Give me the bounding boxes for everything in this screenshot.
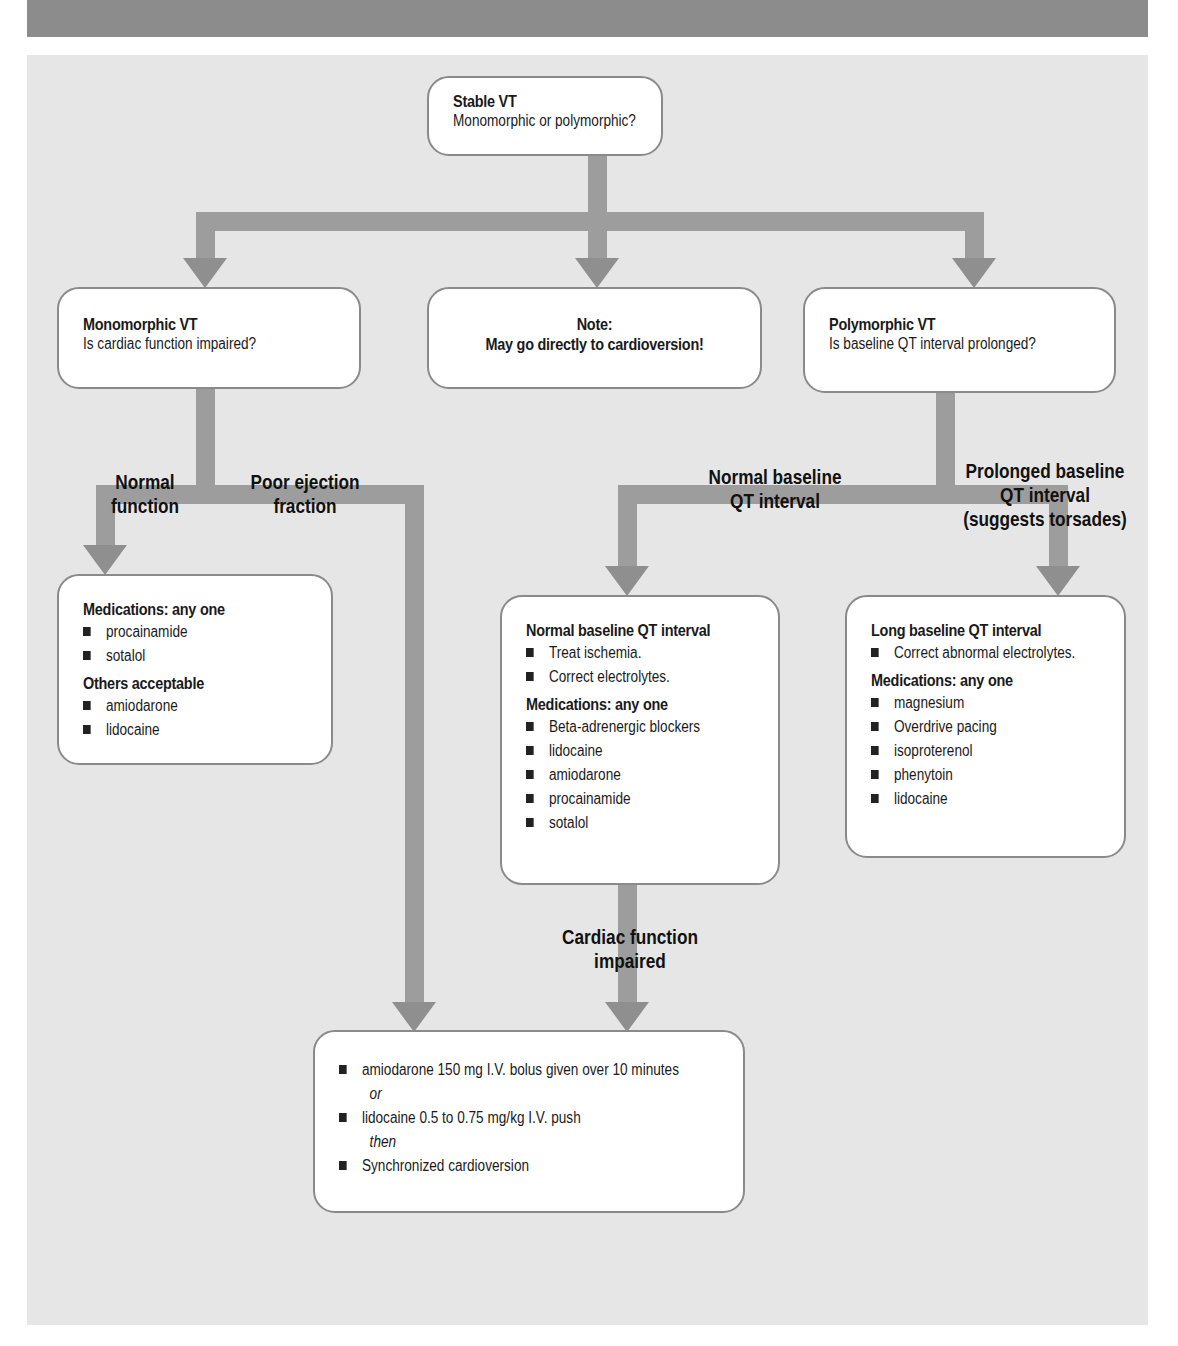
list-item: Synchronized cardioversion	[339, 1154, 662, 1178]
node-question: Monomorphic or polymorphic?	[453, 112, 609, 130]
list-item: amiodarone	[526, 763, 720, 787]
list-item: lidocaine	[83, 718, 273, 742]
medication-list: Beta-adrenergic blockers lidocaine amiod…	[526, 715, 754, 835]
bullet-square-icon	[83, 651, 91, 660]
medication-list: magnesium Overdrive pacing isoproterenol…	[871, 691, 1100, 811]
arrow-down-icon	[392, 1002, 436, 1032]
label-line: Normal	[104, 470, 186, 494]
connector-mono-vertical	[196, 389, 215, 499]
bullet-square-icon	[526, 794, 534, 803]
connector-mono-poor	[405, 485, 424, 1005]
list-item: amiodarone	[83, 694, 273, 718]
medication-list: procainamide sotalol	[83, 620, 307, 668]
action-list: Treat ischemia. Correct electrolytes.	[526, 641, 754, 689]
bullet-square-icon	[871, 746, 879, 755]
connector-start-vertical	[588, 156, 607, 216]
bullet-square-icon	[526, 648, 534, 657]
label-line: Cardiac function	[552, 925, 708, 949]
arrow-down-icon	[183, 258, 227, 288]
section-heading: Normal baseline QT interval	[526, 621, 720, 641]
header-bar	[27, 0, 1148, 37]
list-item: isoproterenol	[871, 739, 1066, 763]
arrow-down-icon	[575, 258, 619, 288]
arrow-down-icon	[83, 545, 127, 575]
connector-to-note	[588, 212, 607, 262]
bullet-square-icon	[526, 722, 534, 731]
arrow-down-icon	[605, 566, 649, 596]
label-line: impaired	[552, 949, 708, 973]
node-final-treatment: amiodarone 150 mg I.V. bolus given over …	[313, 1030, 745, 1213]
label-poor-ejection: Poor ejection fraction	[244, 470, 367, 518]
treatment-list: lidocaine 0.5 to 0.75 mg/kg I.V. push	[339, 1106, 719, 1130]
list-item: Correct abnormal electrolytes.	[871, 641, 1066, 665]
label-normal-function: Normal function	[104, 470, 186, 518]
list-item: Correct electrolytes.	[526, 665, 720, 689]
bullet-square-icon	[339, 1161, 347, 1170]
list-item: Overdrive pacing	[871, 715, 1066, 739]
bullet-square-icon	[871, 770, 879, 779]
bullet-square-icon	[526, 746, 534, 755]
connector-to-poly	[965, 212, 984, 262]
list-item: sotalol	[83, 644, 273, 668]
list-item: procainamide	[83, 620, 273, 644]
node-long-qt: Long baseline QT interval Correct abnorm…	[845, 595, 1126, 858]
list-item: lidocaine 0.5 to 0.75 mg/kg I.V. push	[339, 1106, 662, 1130]
label-line: function	[104, 494, 186, 518]
action-list: Correct abnormal electrolytes.	[871, 641, 1100, 665]
bullet-square-icon	[83, 725, 91, 734]
label-line: QT interval	[963, 483, 1127, 507]
bullet-square-icon	[871, 722, 879, 731]
node-mono-medications: Medications: any one procainamide sotalo…	[57, 574, 333, 765]
label-line: (suggests torsades)	[963, 507, 1127, 531]
label-prolonged-qt: Prolonged baseline QT interval (suggests…	[963, 459, 1127, 531]
bullet-square-icon	[339, 1065, 347, 1074]
medication-list: amiodarone lidocaine	[83, 694, 307, 742]
bullet-square-icon	[83, 627, 91, 636]
node-normal-qt: Normal baseline QT interval Treat ischem…	[500, 595, 780, 885]
label-cardiac-impaired: Cardiac function impaired	[552, 925, 708, 973]
list-item: sotalol	[526, 811, 720, 835]
connector-to-mono	[196, 212, 215, 262]
label-line: QT interval	[705, 489, 844, 513]
bullet-square-icon	[871, 648, 879, 657]
node-question: Is cardiac function impaired?	[83, 335, 297, 353]
section-heading: Medications: any one	[83, 600, 273, 620]
label-line: Prolonged baseline	[963, 459, 1127, 483]
node-polymorphic-vt: Polymorphic VT Is baseline QT interval p…	[803, 287, 1116, 393]
list-item: procainamide	[526, 787, 720, 811]
list-item: Beta-adrenergic blockers	[526, 715, 720, 739]
node-monomorphic-vt: Monomorphic VT Is cardiac function impai…	[57, 287, 361, 389]
section-heading: Others acceptable	[83, 674, 273, 694]
bullet-square-icon	[526, 770, 534, 779]
note-title: Note:	[474, 315, 715, 335]
arrow-down-icon	[1036, 566, 1080, 596]
connector-word-then: then	[339, 1130, 662, 1154]
section-heading: Long baseline QT interval	[871, 621, 1066, 641]
node-title: Polymorphic VT	[829, 315, 1051, 335]
node-title: Stable VT	[453, 92, 609, 112]
node-question: Is baseline QT interval prolonged?	[829, 335, 1051, 353]
label-normal-qt: Normal baseline QT interval	[705, 465, 844, 513]
arrow-down-icon	[952, 258, 996, 288]
arrow-down-icon	[605, 1002, 649, 1032]
node-title: Monomorphic VT	[83, 315, 297, 335]
list-item: lidocaine	[526, 739, 720, 763]
connector-poly-normal	[618, 485, 637, 567]
section-heading: Medications: any one	[871, 671, 1066, 691]
note-text: May go directly to cardioversion!	[474, 335, 715, 355]
bullet-square-icon	[871, 794, 879, 803]
node-stable-vt: Stable VT Monomorphic or polymorphic?	[427, 76, 663, 156]
bullet-square-icon	[871, 698, 879, 707]
list-item: lidocaine	[871, 787, 1066, 811]
list-item: phenytoin	[871, 763, 1066, 787]
list-item: Treat ischemia.	[526, 641, 720, 665]
treatment-list: amiodarone 150 mg I.V. bolus given over …	[339, 1058, 719, 1082]
bullet-square-icon	[339, 1113, 347, 1122]
list-item: amiodarone 150 mg I.V. bolus given over …	[339, 1058, 662, 1082]
label-line: Normal baseline	[705, 465, 844, 489]
bullet-square-icon	[83, 701, 91, 710]
label-line: Poor ejection	[244, 470, 367, 494]
bullet-square-icon	[526, 818, 534, 827]
connector-word-or: or	[339, 1082, 662, 1106]
list-item: magnesium	[871, 691, 1066, 715]
